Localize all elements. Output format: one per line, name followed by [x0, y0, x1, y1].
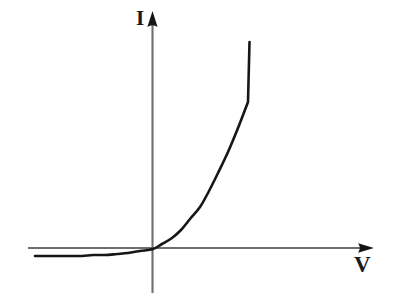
horizontal-axis: [28, 243, 374, 253]
iv-plot-canvas: [0, 0, 394, 301]
diode-iv-curve: [35, 42, 250, 256]
curve-stroke: [35, 42, 250, 256]
iv-characteristic-figure: I V: [0, 0, 394, 301]
up-arrowhead-icon: [147, 11, 157, 27]
x-axis-label-voltage: V: [354, 253, 371, 276]
y-axis-label-current: I: [136, 8, 144, 29]
